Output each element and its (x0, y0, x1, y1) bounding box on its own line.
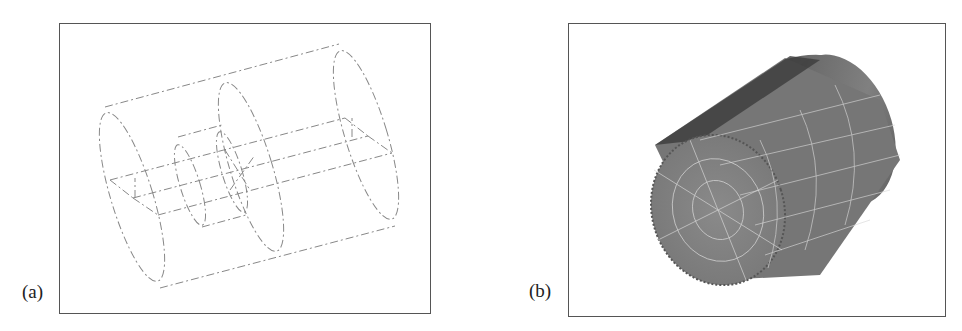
panel-b-frame (568, 23, 946, 317)
panel-b-label: (b) (529, 280, 551, 302)
wireframe-geometry (86, 44, 412, 288)
